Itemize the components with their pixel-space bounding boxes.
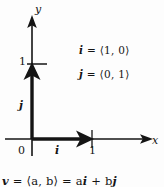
y-axis-label: y [35, 4, 41, 15]
caption-plus: + [91, 174, 101, 187]
diagram-canvas [0, 0, 164, 187]
x-tick-label-1: 1 [89, 145, 96, 156]
x-axis-label: x [152, 135, 158, 146]
caption-vector-v: v [2, 174, 9, 187]
vector-j-label: j [19, 100, 23, 111]
equation-j-equals: = [87, 68, 96, 80]
vector-i-label: i [55, 145, 59, 156]
equation-j-vector: j [79, 68, 83, 80]
equation-j: j = ⟨0, 1⟩ [79, 68, 130, 80]
y-tick-label-1: 1 [19, 56, 26, 67]
caption-formula: v = ⟨a, b⟩ = ai + bj [2, 174, 117, 187]
caption-vector-j: j [112, 174, 116, 187]
equation-i-value: ⟨1, 0⟩ [100, 44, 130, 56]
unit-vector-diagram: y x 1 1 0 j i i = ⟨1, 0⟩ j = ⟨0, 1⟩ v = … [0, 0, 164, 187]
equation-i-equals: = [87, 44, 96, 56]
equation-j-value: ⟨0, 1⟩ [100, 68, 130, 80]
equation-i: i = ⟨1, 0⟩ [79, 44, 130, 56]
caption-vector-i: i [83, 174, 88, 187]
equation-i-vector: i [79, 44, 83, 56]
caption-equals-1: = [13, 174, 23, 187]
caption-coeff-a: a [76, 174, 83, 187]
caption-equals-2: = [62, 174, 72, 187]
caption-components: ⟨a, b⟩ [26, 174, 58, 187]
origin-label: 0 [18, 145, 25, 156]
